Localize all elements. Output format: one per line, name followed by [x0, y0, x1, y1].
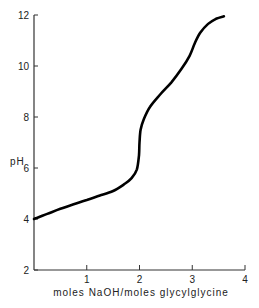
- x-tick-label: 1: [84, 274, 90, 285]
- data-line: [34, 16, 224, 219]
- y-axis-label: pH: [10, 156, 25, 167]
- x-tick-label: 4: [242, 274, 248, 285]
- y-tick-label: 8: [23, 112, 29, 123]
- y-tick-label: 10: [18, 61, 30, 72]
- y-tick-label: 12: [18, 10, 30, 21]
- y-tick-label: 2: [23, 265, 29, 276]
- y-axis: 24681012: [18, 10, 38, 276]
- titration-chart: 24681012 1234 pH moles NaOH/moles glycyl…: [0, 0, 259, 308]
- x-tick-label: 3: [189, 274, 195, 285]
- x-axis-label: moles NaOH/moles glycylglycine: [53, 287, 229, 298]
- y-tick-label: 4: [23, 214, 29, 225]
- x-axis: 1234: [34, 265, 248, 285]
- x-tick-label: 2: [137, 274, 143, 285]
